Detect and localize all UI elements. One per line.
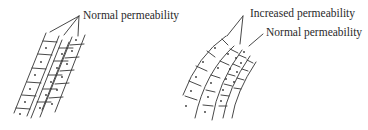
label-increased-permeability: Increased permeability: [250, 8, 355, 20]
left-pointer-lines: [50, 16, 79, 36]
permeability-diagram: Normal permeability Increased permeabili…: [0, 0, 368, 130]
right-cell-layer: [183, 36, 256, 120]
label-normal-permeability-left: Normal permeability: [83, 10, 179, 22]
right-pointer-lines: [227, 16, 263, 46]
left-cell-layer: [14, 33, 85, 118]
label-normal-permeability-right: Normal permeability: [266, 27, 362, 39]
diagram-drawing: [0, 0, 368, 130]
